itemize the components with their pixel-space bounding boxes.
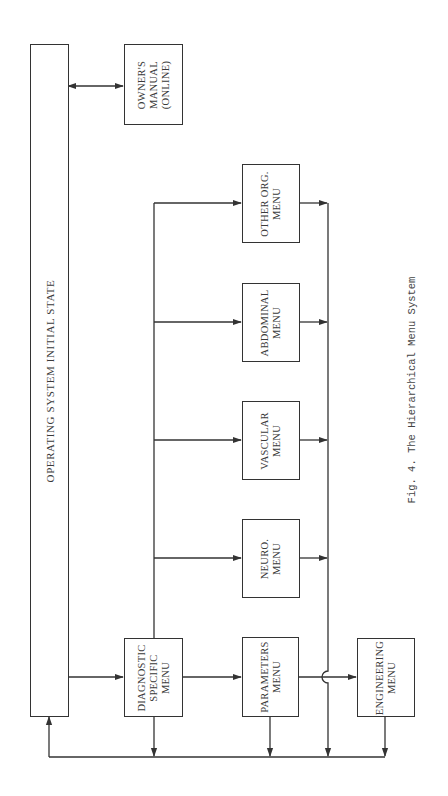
engineering-line-2: MENU — [386, 640, 398, 714]
parameters-line-1: PARAMETERS — [259, 641, 271, 712]
abdominal-menu-box: ABDOMINAL MENU — [242, 283, 300, 362]
owners-manual-label: OWNER'S MANUAL (ONLINE) — [136, 60, 172, 108]
initial-state-box: OPERATING SYSTEM INITIAL STATE — [30, 44, 69, 717]
diagnostic-line-1: DIAGNOSTIC — [136, 644, 148, 711]
vascular-menu-label: VASCULAR MENU — [259, 412, 283, 470]
abdominal-menu-label: ABDOMINAL MENU — [259, 289, 283, 356]
vascular-menu-box: VASCULAR MENU — [242, 401, 300, 480]
diagnostic-line-3: MENU — [160, 644, 172, 711]
parameters-menu-label: PARAMETERS MENU — [259, 641, 283, 712]
neuro-line-2: MENU — [271, 538, 283, 579]
abdominal-line-1: ABDOMINAL — [259, 289, 271, 356]
other-org-line-2: MENU — [271, 171, 283, 236]
neuro-line-1: NEURO. — [259, 538, 271, 579]
abdominal-line-2: MENU — [271, 289, 283, 356]
engineering-line-1: ENGINEERING — [374, 640, 386, 714]
diagnostic-line-2: SPECIFIC — [148, 644, 160, 711]
owners-manual-line-2: MANUAL — [148, 60, 160, 108]
diagnostic-specific-menu-label: DIAGNOSTIC SPECIFIC MENU — [136, 644, 172, 711]
neuro-menu-label: NEURO. MENU — [259, 538, 283, 579]
owners-manual-line-1: OWNER'S — [136, 60, 148, 108]
neuro-menu-box: NEURO. MENU — [242, 519, 300, 598]
parameters-menu-box: PARAMETERS MENU — [242, 637, 299, 717]
other-org-menu-box: OTHER ORG. MENU — [242, 164, 300, 243]
diagnostic-specific-menu-box: DIAGNOSTIC SPECIFIC MENU — [124, 638, 183, 717]
owners-manual-line-3: (ONLINE) — [160, 60, 172, 108]
other-org-line-1: OTHER ORG. — [259, 171, 271, 236]
owners-manual-box: OWNER'S MANUAL (ONLINE) — [124, 44, 183, 125]
other-org-menu-label: OTHER ORG. MENU — [259, 171, 283, 236]
vascular-line-2: MENU — [271, 412, 283, 470]
initial-state-label: OPERATING SYSTEM INITIAL STATE — [44, 279, 56, 482]
parameters-line-2: MENU — [271, 641, 283, 712]
figure-caption: Fig. 4. The Hierarchical Menu System — [406, 277, 418, 504]
engineering-menu-box: ENGINEERING MENU — [357, 638, 415, 717]
vascular-line-1: VASCULAR — [259, 412, 271, 470]
menu-hierarchy-diagram: OPERATING SYSTEM INITIAL STATE OWNER'S M… — [0, 0, 448, 796]
engineering-menu-label: ENGINEERING MENU — [374, 640, 398, 714]
